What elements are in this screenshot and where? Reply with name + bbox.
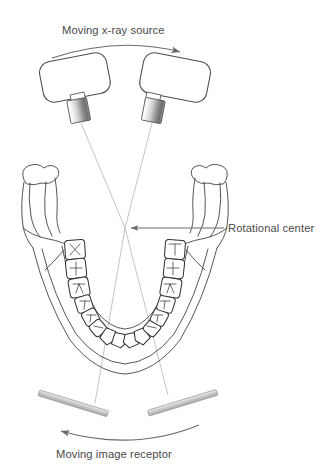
right-ramus-anterior-border xyxy=(210,183,221,237)
left-oblique-ridge xyxy=(45,250,64,270)
mandible-left-ramus xyxy=(22,164,66,248)
left-ramus-inner-line xyxy=(45,182,52,236)
left-ramus-anterior-border xyxy=(29,183,40,237)
right-ramus-posterior-border xyxy=(190,178,195,233)
panoramic-radiography-diagram: Moving x-ray source xyxy=(0,0,326,472)
right-condyle xyxy=(191,164,227,184)
right-ramus-notch xyxy=(184,228,227,244)
bottom-label-moving-image-receptor: Moving image receptor xyxy=(56,448,172,460)
mandible-right-ramus xyxy=(184,164,228,248)
xray-source-right xyxy=(138,51,213,124)
label-rotational-center: Rotational center xyxy=(228,222,314,234)
tooth-right-7 xyxy=(163,258,185,279)
xray-beam-right-to-left xyxy=(95,123,152,403)
xray-beam-lines xyxy=(81,123,168,403)
xray-source-right-collimator xyxy=(141,97,165,123)
right-oblique-ridge xyxy=(186,250,205,270)
xray-source-left xyxy=(38,51,113,124)
left-ramus-outer-border xyxy=(22,182,33,248)
image-receptor-right xyxy=(147,389,218,416)
left-ramus-posterior-border xyxy=(55,178,60,233)
left-condyle xyxy=(23,164,59,184)
image-receptors xyxy=(38,389,218,416)
image-receptor-left xyxy=(38,390,109,417)
top-label-moving-x-ray-source: Moving x-ray source xyxy=(62,24,165,36)
mandible-outer-border xyxy=(33,248,217,374)
tooth-right-6 xyxy=(159,276,182,298)
xray-source-left-collimator xyxy=(67,97,91,123)
right-ramus-outer-border xyxy=(217,182,228,248)
diagram-canvas: Moving x-ray source xyxy=(0,0,326,472)
xray-beam-left-to-right xyxy=(81,123,168,395)
moving-image-receptor-arrow xyxy=(61,425,199,440)
dental-arch xyxy=(64,239,185,349)
left-ramus-notch xyxy=(23,228,66,244)
